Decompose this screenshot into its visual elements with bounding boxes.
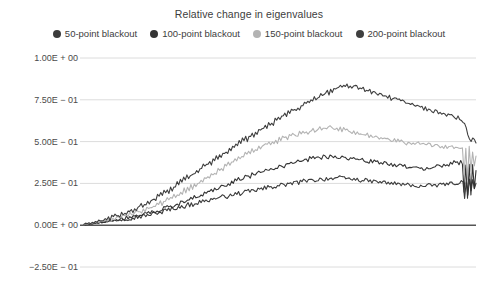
series-line [84, 84, 476, 224]
series-line [84, 126, 476, 225]
series-paths [84, 84, 476, 225]
y-tick-label: 1.00E + 00 [6, 53, 78, 63]
y-tick-label: 7.50E − 01 [6, 95, 78, 105]
y-tick-label: 0.00E + 00 [6, 220, 78, 230]
plot-area: 1.00E + 007.50E − 015.00E − 012.50E − 01… [0, 0, 498, 284]
series-line [84, 155, 476, 225]
y-axis: 1.00E + 007.50E − 015.00E − 012.50E − 01… [6, 0, 78, 284]
y-tick-label: 5.00E − 01 [6, 137, 78, 147]
gridlines [80, 58, 476, 267]
chart-container: Relative change in eigenvalues 50-point … [0, 0, 498, 284]
y-tick-label: −2.50E − 01 [6, 262, 78, 272]
y-tick-label: 2.50E − 01 [6, 178, 78, 188]
